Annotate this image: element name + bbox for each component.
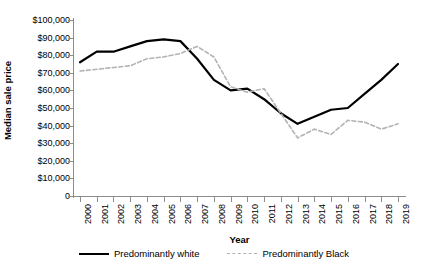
legend-item-predominantly-black[interactable]: Predominantly Black xyxy=(227,248,349,259)
x-axis-tick xyxy=(113,197,114,202)
y-axis-tick xyxy=(68,38,73,39)
x-tick-label: 2011 xyxy=(268,204,277,223)
x-axis-tick xyxy=(381,197,382,202)
x-tick-label: 2015 xyxy=(335,204,344,224)
y-axis-tick xyxy=(68,178,73,179)
x-tick-label: 2006 xyxy=(184,204,193,224)
y-axis-tick xyxy=(68,90,73,91)
y-axis-tick xyxy=(68,55,73,56)
x-axis-tick xyxy=(348,197,349,202)
x-axis-tick xyxy=(247,197,248,202)
y-axis-tick xyxy=(68,108,73,109)
x-axis-tick xyxy=(130,197,131,202)
x-axis-tick xyxy=(298,197,299,202)
x-tick-label: 2017 xyxy=(369,204,378,224)
x-tick-label: 2016 xyxy=(352,204,361,224)
x-tick-label: 2009 xyxy=(235,204,244,224)
legend-line-dashed-icon xyxy=(227,253,257,254)
x-tick-label: 2010 xyxy=(251,204,260,224)
x-axis-tick xyxy=(197,197,198,202)
x-tick-label: 2012 xyxy=(285,204,294,224)
x-axis-tick xyxy=(180,197,181,202)
x-axis-tick xyxy=(80,197,81,202)
x-axis-tick xyxy=(365,197,366,202)
x-axis-title: Year xyxy=(73,234,406,245)
x-axis-tick xyxy=(97,197,98,202)
y-axis-tick xyxy=(68,143,73,144)
x-axis-tick-labels: 2000200120022003200420052006200720082009… xyxy=(0,0,428,268)
y-axis-tick xyxy=(68,126,73,127)
median-sale-price-line-chart: Median sale price $100,000$90,000$80,000… xyxy=(0,0,428,268)
x-tick-label: 2003 xyxy=(134,204,143,224)
x-tick-label: 2007 xyxy=(201,204,210,224)
y-axis-tick xyxy=(68,20,73,21)
legend-line-solid-icon xyxy=(79,253,109,255)
x-axis-tick xyxy=(331,197,332,202)
x-tick-label: 2001 xyxy=(101,204,110,224)
x-axis-tick xyxy=(214,197,215,202)
x-tick-label: 2000 xyxy=(84,204,93,224)
x-axis-tick xyxy=(264,197,265,202)
legend-label: Predominantly Black xyxy=(262,248,349,259)
x-axis-tick xyxy=(231,197,232,202)
x-tick-label: 2014 xyxy=(318,204,327,224)
legend-label: Predominantly white xyxy=(114,248,200,259)
x-tick-label: 2013 xyxy=(302,204,311,224)
x-axis-tick xyxy=(398,197,399,202)
y-axis-tick xyxy=(68,73,73,74)
y-axis-tick xyxy=(68,161,73,162)
x-tick-label: 2002 xyxy=(117,204,126,224)
chart-legend: Predominantly white Predominantly Black xyxy=(0,248,428,259)
x-axis-tick xyxy=(147,197,148,202)
x-axis-tick xyxy=(314,197,315,202)
x-tick-label: 2004 xyxy=(151,204,160,224)
x-tick-label: 2019 xyxy=(402,204,411,224)
x-tick-label: 2005 xyxy=(168,204,177,224)
x-axis-tick xyxy=(164,197,165,202)
x-tick-label: 2008 xyxy=(218,204,227,224)
y-axis-tick xyxy=(68,196,73,197)
x-axis-tick xyxy=(281,197,282,202)
x-tick-label: 2018 xyxy=(385,204,394,224)
legend-item-predominantly-white[interactable]: Predominantly white xyxy=(79,248,200,259)
